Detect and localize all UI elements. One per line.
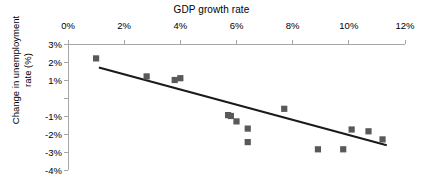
x-tick-label-1: 2% <box>117 20 131 31</box>
y-tick-label-2: 1% <box>26 75 62 86</box>
data-point <box>379 136 385 142</box>
x-tick-label-0: 0% <box>61 20 75 31</box>
data-point <box>177 75 183 81</box>
x-tick-label-2: 4% <box>173 20 187 31</box>
y-tick-label-5: -2% <box>26 129 62 140</box>
y-tick-label-4: -1% <box>26 111 62 122</box>
scatter-chart: GDP growth rate Change in unemployment r… <box>0 0 423 182</box>
data-point <box>228 113 234 119</box>
x-tick-label-6: 12% <box>395 20 414 31</box>
x-tick-label-4: 8% <box>286 20 300 31</box>
x-tick-label-5: 10% <box>339 20 358 31</box>
y-tick-label-7: -4% <box>26 165 62 176</box>
data-point <box>340 146 346 152</box>
x-tick-label-3: 6% <box>230 20 244 31</box>
data-point <box>365 128 371 134</box>
data-point <box>144 73 150 79</box>
data-point <box>233 118 239 124</box>
y-tick-label-6: -3% <box>26 147 62 158</box>
data-point <box>349 126 355 132</box>
data-point <box>172 77 178 83</box>
y-tick-label-1: 2% <box>26 57 62 68</box>
data-point <box>281 106 287 112</box>
y-tick-label-0: 3% <box>26 39 62 50</box>
data-point <box>315 146 321 152</box>
data-point <box>245 139 251 145</box>
data-point <box>245 126 251 132</box>
data-point <box>93 55 99 61</box>
